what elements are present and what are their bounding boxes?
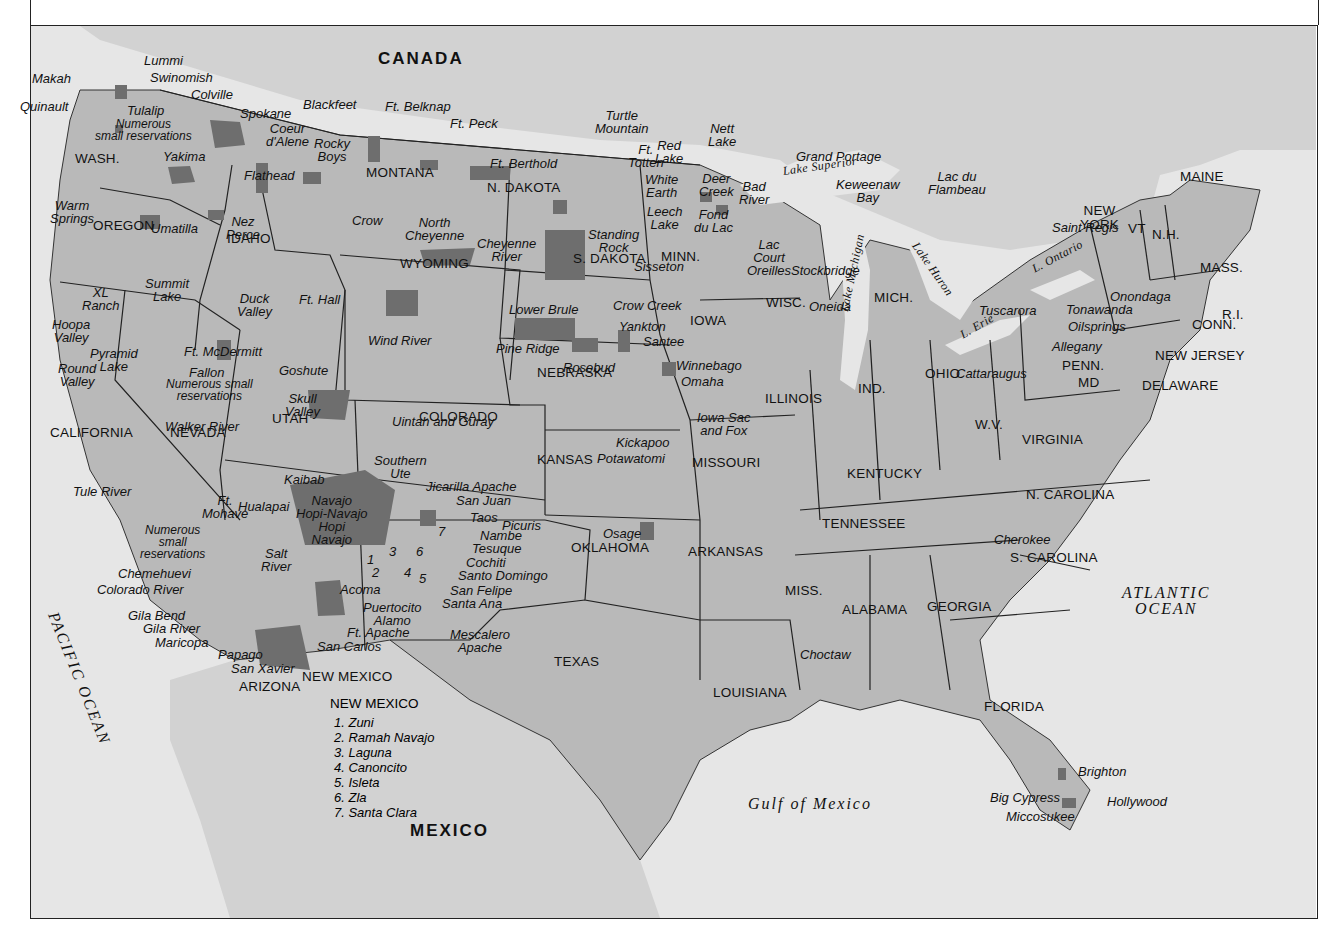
reservation-label: Tuscarora	[979, 304, 1037, 317]
reservation-label: SaltRiver	[261, 547, 291, 573]
reservation-label: Lummi	[144, 54, 183, 67]
state-label: WISC.	[766, 296, 806, 310]
reservation-label: NavajoHopi-NavajoHopiNavajo	[296, 494, 368, 546]
reservation-label: RockyBoys	[314, 137, 350, 163]
reservation-label: Miccosukee	[1006, 810, 1075, 823]
reservation-label: Cattaraugus	[956, 367, 1027, 380]
reservation-label: Hollywood	[1107, 795, 1167, 808]
reservation-label: Ft. Hall	[299, 293, 340, 306]
reservation-label: San Juan	[456, 494, 511, 507]
state-label: N. CAROLINA	[1026, 488, 1114, 502]
state-label: CALIFORNIA	[50, 426, 133, 440]
legend-title: NEW MEXICO	[330, 696, 434, 711]
reservation-label: Quinault	[20, 100, 68, 113]
reservation-label: Papago	[218, 648, 263, 661]
state-label: VT	[1128, 222, 1146, 236]
reservation-label: Crow Creek	[613, 299, 682, 312]
reservation-label: Choctaw	[800, 648, 851, 661]
reservation-label: Jicarilla Apache	[426, 480, 517, 493]
reservation-label: Taos	[470, 511, 498, 524]
reservation-label: Sisseton	[634, 260, 684, 273]
reservation-label: Potawatomi	[597, 452, 665, 465]
reservation-label: Ft. Apache	[347, 626, 409, 639]
reservation-label: DeerCreek	[699, 172, 734, 198]
nm-reservation-number: 3	[389, 545, 396, 558]
reservation-label: Tule River	[73, 485, 131, 498]
reservation-label: TurtleMountain	[595, 109, 648, 135]
state-label: MAINE	[1180, 170, 1224, 184]
reservation-label: Acoma	[340, 583, 380, 596]
reservation-label: Wind River	[368, 334, 431, 347]
reservation-label: LacCourtOreilles	[747, 238, 791, 277]
reservation-label: WarmSprings	[50, 199, 94, 225]
nm-reservation-number: 4	[404, 566, 411, 579]
state-label: N. DAKOTA	[487, 181, 561, 195]
state-label: ARKANSAS	[688, 545, 763, 559]
nm-reservation-number: 6	[416, 545, 423, 558]
state-label: CONN.	[1192, 318, 1237, 332]
reservation-label: RoundValley	[58, 362, 96, 388]
legend-item: 7. Santa Clara	[330, 805, 434, 820]
reservation-label: Spokane	[240, 107, 291, 120]
state-label: W.V.	[975, 418, 1003, 432]
reservation-label: Oneida	[809, 300, 851, 313]
reservation-label: Chemehuevi	[118, 567, 191, 580]
legend-item: 2. Ramah Navajo	[330, 730, 434, 745]
reservation-label: Flathead	[244, 169, 295, 182]
top-margin-frame	[30, 0, 1319, 25]
reservation-label: PyramidLake	[90, 347, 138, 373]
reservation-label: BadRiver	[739, 180, 769, 206]
reservation-label: RedLake	[655, 139, 683, 165]
state-label: ARIZONA	[239, 680, 300, 694]
reservation-label: Tulalip	[127, 104, 164, 117]
state-label: ILLINOIS	[765, 392, 822, 406]
reservation-label: San Xavier	[231, 662, 295, 675]
reservation-label: Santa Ana	[442, 597, 502, 610]
reservation-label: Numeroussmall reservations	[95, 118, 192, 142]
legend-item: 3. Laguna	[330, 745, 434, 760]
reservation-label: Crow	[352, 214, 382, 227]
state-label: OREGON	[93, 219, 154, 233]
state-label: NEW JERSEY	[1155, 349, 1245, 363]
reservation-label: StandingRock	[588, 228, 639, 254]
state-label: PENN.	[1062, 359, 1104, 373]
reservation-label: KeweenawBay	[836, 178, 900, 204]
state-label: MONTANA	[366, 166, 434, 180]
reservation-label: Hualapai	[238, 500, 289, 513]
reservation-label: Ft. McDermitt	[184, 345, 262, 358]
state-label: GEORGIA	[927, 600, 991, 614]
reservation-label: Rosebud	[563, 361, 615, 374]
reservation-label: LeechLake	[647, 205, 682, 231]
state-label: MD	[1078, 376, 1099, 390]
reservation-label: Osage	[603, 527, 641, 540]
reservation-label: PuertocitoAlamo	[363, 601, 422, 627]
state-label: LOUISIANA	[713, 686, 787, 700]
legend-item: 6. Zla	[330, 790, 434, 805]
state-label: MASS.	[1200, 261, 1243, 275]
state-label: KANSAS	[537, 453, 593, 467]
reservation-label: Ft. Berthold	[490, 157, 557, 170]
reservation-label: Santee	[643, 335, 684, 348]
state-label: FLORIDA	[984, 700, 1044, 714]
reservation-label: Kaibab	[284, 473, 324, 486]
state-label: MISS.	[785, 584, 823, 598]
state-label: DELAWARE	[1142, 379, 1218, 393]
reservation-label: Allegany	[1052, 340, 1102, 353]
reservation-label: MescaleroApache	[450, 628, 510, 654]
state-label: IND.	[858, 382, 886, 396]
reservation-label: Gila River	[143, 622, 200, 635]
state-label: WASH.	[75, 152, 120, 166]
reservation-label: Colorado River	[97, 583, 184, 596]
legend-item: 1. Zuni	[330, 715, 434, 730]
reservation-label: Goshute	[279, 364, 328, 377]
reservation-label: NettLake	[708, 122, 736, 148]
reservation-label: XLRanch	[82, 286, 120, 312]
state-label: S. CAROLINA	[1010, 551, 1098, 565]
reservation-label: SouthernUte	[374, 454, 427, 480]
new-mexico-legend: NEW MEXICO1. Zuni2. Ramah Navajo3. Lagun…	[330, 696, 434, 820]
nm-reservation-number: 7	[438, 525, 445, 538]
reservation-label: Big Cypress	[990, 791, 1060, 804]
reservation-label: CheyenneRiver	[477, 237, 536, 263]
state-label: VIRGINIA	[1022, 433, 1083, 447]
state-label: TENNESSEE	[822, 517, 906, 531]
